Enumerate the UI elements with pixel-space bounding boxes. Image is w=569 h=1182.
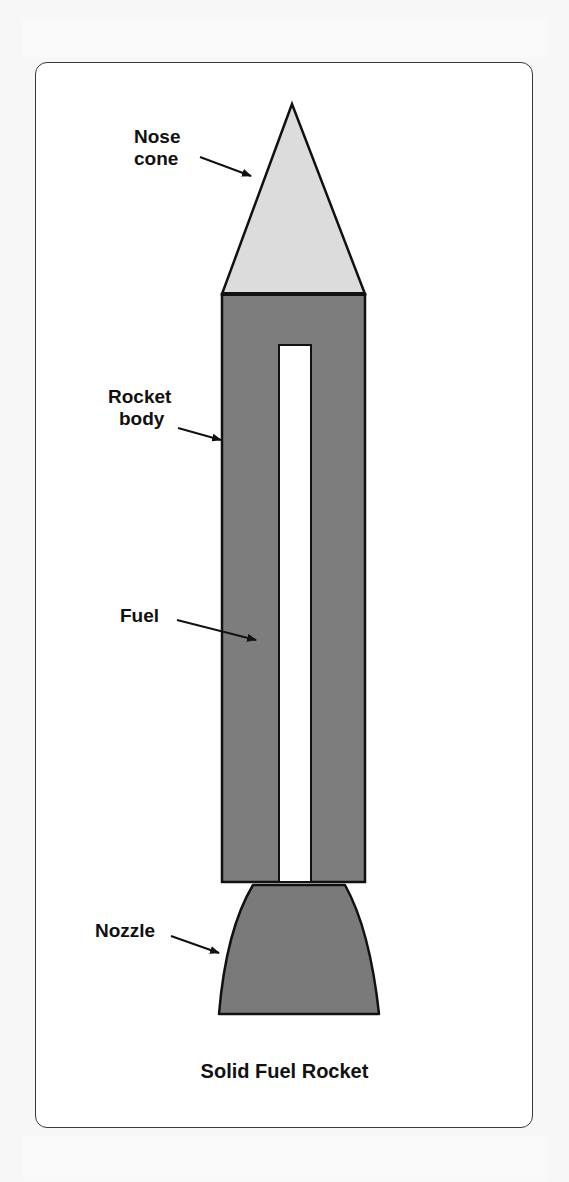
- nozzle-arrow-icon: [171, 936, 219, 953]
- label-fuel-line1: Fuel: [120, 605, 159, 627]
- label-nose-cone-line2: cone: [134, 148, 180, 170]
- nose-cone-shape: [222, 104, 365, 294]
- label-nozzle-line1: Nozzle: [95, 920, 155, 942]
- label-nose-cone-line1: Nose: [134, 126, 180, 148]
- label-rocket-body-line2: body: [108, 408, 171, 430]
- label-fuel: Fuel: [120, 605, 159, 627]
- label-rocket-body-line1: Rocket: [108, 386, 171, 408]
- fuel-core-channel: [279, 345, 311, 882]
- rocket-diagram: [0, 0, 569, 1182]
- nozzle-shape: [219, 885, 379, 1014]
- nose-cone-arrow-icon: [200, 157, 251, 176]
- rocket-body-arrow-icon: [178, 428, 221, 440]
- label-rocket-body: Rocket body: [108, 386, 171, 430]
- label-nozzle: Nozzle: [95, 920, 155, 942]
- label-nose-cone: Nose cone: [134, 126, 180, 170]
- figure-caption: Solid Fuel Rocket: [0, 1060, 569, 1083]
